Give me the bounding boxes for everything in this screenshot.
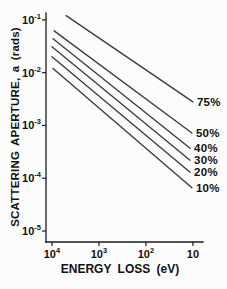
x-tick-label: 103	[91, 246, 107, 260]
x-tick-label: 102	[138, 246, 154, 260]
y-tick-label: 10-4	[22, 170, 42, 184]
series-label-30%: 30%	[194, 154, 218, 166]
series-line-30%	[52, 47, 190, 160]
y-tick-label: 10-1	[22, 12, 41, 26]
y-tick-label: 10-5	[22, 223, 41, 237]
series-line-40%	[53, 39, 190, 149]
chart-canvas: 1041031021010-110-210-310-410-575%50%40%…	[0, 0, 227, 289]
series-line-20%	[52, 57, 190, 172]
series-label-75%: 75%	[197, 96, 221, 108]
series-label-20%: 20%	[194, 166, 218, 178]
x-tick-label: 104	[44, 246, 61, 260]
scattering-aperture-vs-energy-loss-chart: 1041031021010-110-210-310-410-575%50%40%…	[0, 0, 227, 289]
y-axis-title: SCATTERING APERTURE, a (rads)	[9, 27, 21, 227]
x-axis-title: ENERGY LOSS (eV)	[61, 262, 179, 276]
series-label-40%: 40%	[194, 142, 218, 154]
series-label-50%: 50%	[196, 127, 220, 139]
series-line-50%	[54, 31, 192, 133]
x-tick-label: 10	[187, 248, 199, 260]
y-tick-label: 10-2	[22, 65, 41, 79]
y-tick-label: 10-3	[22, 117, 41, 131]
series-line-75%	[66, 16, 193, 102]
series-label-10%: 10%	[196, 182, 220, 194]
